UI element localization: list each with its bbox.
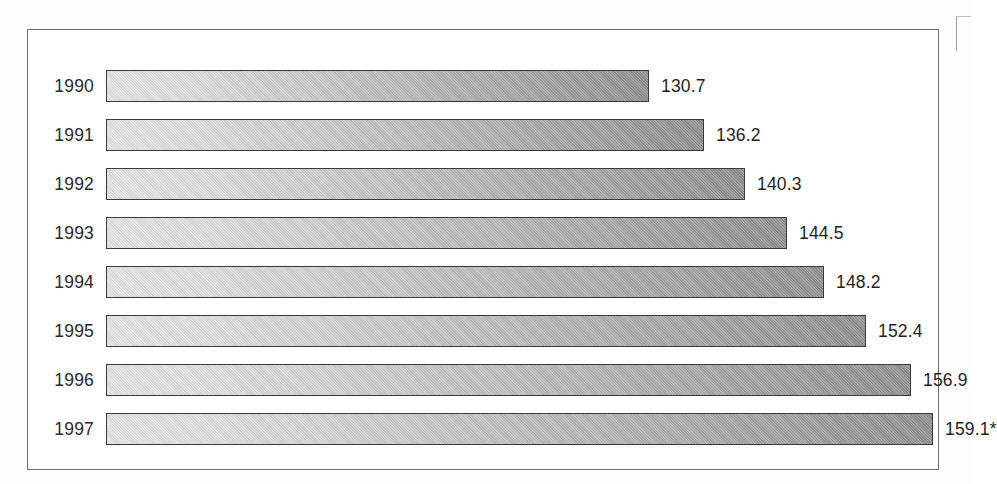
bar-row: 1996156.9 bbox=[28, 363, 938, 397]
bar-track: 144.5 bbox=[106, 216, 938, 250]
bar-row: 1995152.4 bbox=[28, 314, 938, 348]
bar bbox=[106, 70, 649, 102]
bar-value-label: 148.2 bbox=[836, 265, 881, 299]
bar bbox=[106, 266, 824, 298]
bar-category-label: 1993 bbox=[28, 216, 94, 250]
bar-track: 159.1* bbox=[106, 412, 938, 446]
bar-row: 1992140.3 bbox=[28, 167, 938, 201]
bar-category-label: 1994 bbox=[28, 265, 94, 299]
bar-track: 130.7 bbox=[106, 69, 938, 103]
bar bbox=[106, 413, 933, 445]
bar-track: 140.3 bbox=[106, 167, 938, 201]
bar-chart-plot-area: 1990130.71991136.21992140.31993144.51994… bbox=[28, 30, 938, 469]
bar-category-label: 1992 bbox=[28, 167, 94, 201]
bar-value-label: 136.2 bbox=[716, 118, 761, 152]
bar-track: 148.2 bbox=[106, 265, 938, 299]
bar-row: 1997159.1* bbox=[28, 412, 938, 446]
bar-category-label: 1990 bbox=[28, 69, 94, 103]
chart-frame: 1990130.71991136.21992140.31993144.51994… bbox=[27, 29, 939, 470]
bar-value-label: 140.3 bbox=[757, 167, 802, 201]
bar-category-label: 1996 bbox=[28, 363, 94, 397]
bar bbox=[106, 168, 745, 200]
adjacent-frame-sliver bbox=[956, 16, 971, 51]
bar-value-label: 130.7 bbox=[661, 69, 706, 103]
bar-value-label: 159.1* bbox=[945, 412, 997, 446]
bar-category-label: 1997 bbox=[28, 412, 94, 446]
bar bbox=[106, 119, 704, 151]
bar bbox=[106, 217, 787, 249]
bar-value-label: 152.4 bbox=[878, 314, 923, 348]
bar-value-label: 156.9 bbox=[923, 363, 968, 397]
bar-category-label: 1991 bbox=[28, 118, 94, 152]
bar-category-label: 1995 bbox=[28, 314, 94, 348]
bar-track: 156.9 bbox=[106, 363, 938, 397]
bar-row: 1994148.2 bbox=[28, 265, 938, 299]
bar-row: 1993144.5 bbox=[28, 216, 938, 250]
bar-row: 1990130.7 bbox=[28, 69, 938, 103]
bar-row: 1991136.2 bbox=[28, 118, 938, 152]
bar-track: 152.4 bbox=[106, 314, 938, 348]
bar-value-label: 144.5 bbox=[799, 216, 844, 250]
bar bbox=[106, 364, 911, 396]
bar-track: 136.2 bbox=[106, 118, 938, 152]
bar bbox=[106, 315, 866, 347]
